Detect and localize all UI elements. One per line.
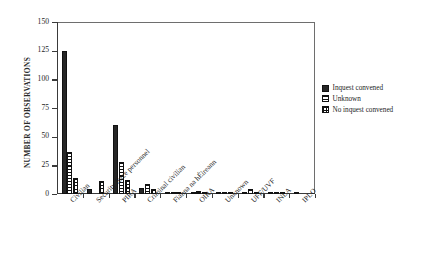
plot-top-border — [57, 22, 315, 23]
y-axis-tick: 100 — [52, 79, 57, 80]
chart-legend: Inquest convenedUnknownNo inquest conven… — [322, 84, 420, 116]
x-axis-tick-label: OIRA — [197, 185, 216, 204]
bar — [62, 51, 67, 194]
bar — [242, 192, 247, 194]
y-axis-title: NUMBER OF OBSERVATIONS — [23, 38, 32, 188]
plot-right-border — [314, 22, 315, 194]
legend-swatch-icon — [322, 106, 329, 113]
x-axis-tick-label: Unknown — [223, 177, 250, 204]
legend-item-label: Inquest convened — [333, 84, 384, 92]
y-axis-tick-label: 75 — [41, 103, 49, 112]
y-axis-tick-label: 150 — [38, 17, 49, 26]
y-axis-tick: 125 — [52, 51, 57, 52]
y-axis-tick-label: 0 — [45, 189, 49, 198]
bar — [165, 192, 170, 194]
bar-chart-figure: NUMBER OF OBSERVATIONS 0255075100125150 … — [0, 0, 423, 275]
bar — [268, 192, 273, 194]
legend-swatch-icon — [322, 95, 329, 102]
legend-swatch-icon — [322, 85, 329, 92]
y-axis-tick-label: 50 — [41, 131, 49, 140]
bar — [216, 192, 221, 194]
y-axis-tick: 50 — [52, 137, 57, 138]
y-axis-tick: 75 — [52, 108, 57, 109]
legend-item-label: No inquest convened — [333, 106, 394, 114]
legend-item: No inquest convened — [322, 106, 420, 114]
y-axis-tick: 150 — [52, 22, 57, 23]
legend-item: Unknown — [322, 95, 420, 103]
legend-item: Inquest convened — [322, 84, 420, 92]
bar — [294, 192, 299, 194]
bar — [191, 192, 196, 194]
y-axis-tick: 25 — [52, 165, 57, 166]
bar — [67, 152, 72, 194]
legend-item-label: Unknown — [333, 95, 361, 103]
y-axis-tick-label: 100 — [38, 74, 49, 83]
bar — [139, 188, 144, 194]
y-axis-tick-label: 25 — [41, 160, 49, 169]
y-axis-tick-label: 125 — [38, 45, 49, 54]
y-axis-tick: 0 — [52, 194, 57, 195]
plot-area: 0255075100125150 CivilianSecurity force … — [57, 22, 315, 194]
y-axis-line — [57, 22, 58, 194]
